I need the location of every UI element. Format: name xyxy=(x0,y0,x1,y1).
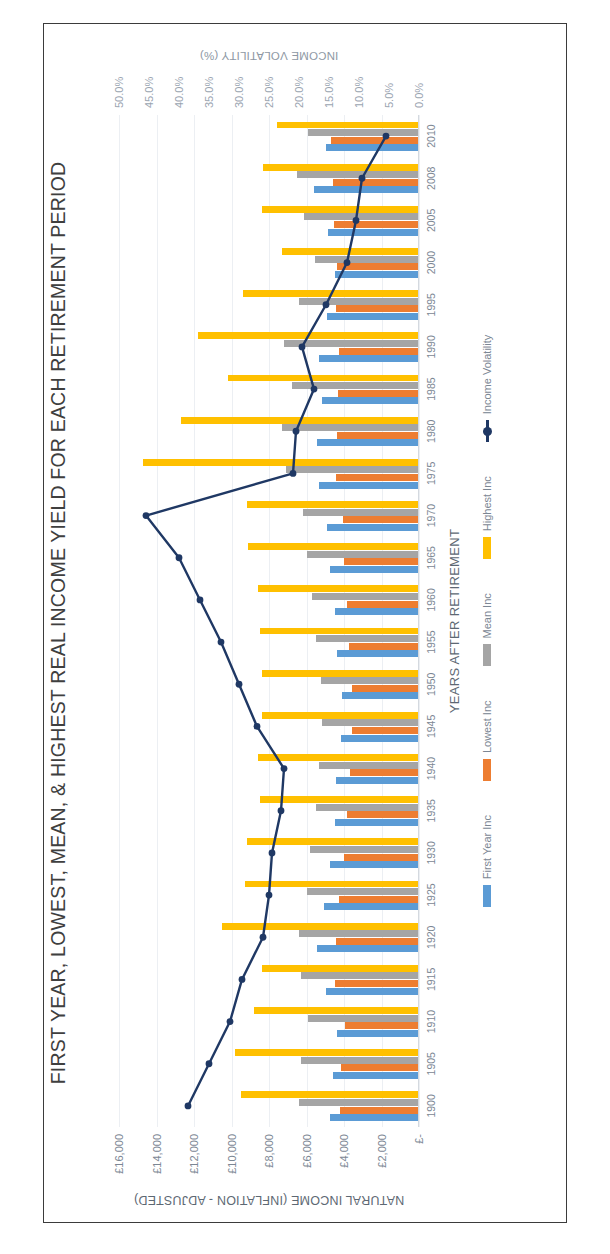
y-tick-label-right: 30.0% xyxy=(233,77,245,108)
x-tick-label: 2000 xyxy=(425,251,437,274)
legend-label: First Year Inc xyxy=(481,815,493,879)
x-tick-label: 1975 xyxy=(425,462,437,485)
x-tick-label: 1910 xyxy=(425,1010,437,1033)
volatility-point xyxy=(206,1060,213,1067)
legend-label: Mean Inc xyxy=(481,593,493,638)
x-tick-label: 2010 xyxy=(425,124,437,147)
x-axis-baseline xyxy=(418,115,419,1127)
volatility-point xyxy=(176,554,183,561)
y-axis-title-right: INCOME VOLATILITY (%) xyxy=(119,47,419,65)
y-tick-label-right: 10.0% xyxy=(353,77,365,108)
legend-label: Lowest Inc xyxy=(481,700,493,753)
chart-title: FIRST YEAR, LOWEST, MEAN, & HIGHEST REAL… xyxy=(47,23,70,1223)
y-axis-title-left: NATURAL INCOME (INFLATION - ADJUSTED) xyxy=(119,1191,419,1209)
volatility-point xyxy=(260,934,267,941)
y-tick-label-right: 45.0% xyxy=(143,77,155,108)
y-tick-label-left: £- xyxy=(413,1134,425,1144)
volatility-point xyxy=(299,344,306,351)
y-tick-label-left: £12,000 xyxy=(188,1134,200,1174)
y-tick-label-right: 20.0% xyxy=(293,77,305,108)
y-tick-label-right: 25.0% xyxy=(263,77,275,108)
legend-swatch xyxy=(483,644,491,666)
volatility-line-layer xyxy=(119,115,419,1127)
rotated-chart-wrapper: FIRST YEAR, LOWEST, MEAN, & HIGHEST REAL… xyxy=(43,23,567,1223)
x-tick-label: 1920 xyxy=(425,926,437,949)
volatility-point xyxy=(278,807,285,814)
x-tick-label: 1905 xyxy=(425,1052,437,1075)
page-canvas: FIRST YEAR, LOWEST, MEAN, & HIGHEST REAL… xyxy=(0,0,610,1254)
legend-swatch xyxy=(486,420,489,442)
y-tick-label-left: £4,000 xyxy=(338,1134,350,1168)
chart-rotor: FIRST YEAR, LOWEST, MEAN, & HIGHEST REAL… xyxy=(43,23,567,1223)
x-tick-label: 1980 xyxy=(425,420,437,443)
x-tick-label: 1915 xyxy=(425,968,437,991)
volatility-point xyxy=(293,428,300,435)
volatility-point xyxy=(290,470,297,477)
y-tick-label-left: £6,000 xyxy=(301,1134,313,1168)
x-tick-label: 1995 xyxy=(425,293,437,316)
x-tick-label: 1945 xyxy=(425,715,437,738)
x-tick-label: 1950 xyxy=(425,673,437,696)
volatility-point xyxy=(239,976,246,983)
y-axis-title-left-text: NATURAL INCOME (INFLATION - ADJUSTED) xyxy=(134,1193,404,1207)
legend-swatch xyxy=(483,759,491,781)
volatility-line xyxy=(146,136,386,1106)
y-axis-title-right-text: INCOME VOLATILITY (%) xyxy=(200,50,339,62)
volatility-point xyxy=(323,301,330,308)
volatility-point xyxy=(143,512,150,519)
x-axis-title: YEARS AFTER RETIREMENT xyxy=(447,115,462,1127)
x-tick-label: 2005 xyxy=(425,209,437,232)
x-tick-label: 1900 xyxy=(425,1094,437,1117)
volatility-point xyxy=(311,386,318,393)
legend-swatch xyxy=(483,885,491,907)
x-tick-label: 1940 xyxy=(425,757,437,780)
legend-item[interactable]: Income Volatility xyxy=(481,335,493,442)
volatility-point xyxy=(197,597,204,604)
x-tick-label: 1925 xyxy=(425,883,437,906)
volatility-point xyxy=(281,765,288,772)
x-tick-label: 1960 xyxy=(425,588,437,611)
legend-item[interactable]: Highest Inc xyxy=(481,476,493,559)
y-tick-label-right: 5.0% xyxy=(383,83,395,108)
volatility-point xyxy=(254,723,261,730)
x-tick-label: 1990 xyxy=(425,335,437,358)
x-tick-label: 2008 xyxy=(425,167,437,190)
volatility-point xyxy=(344,259,351,266)
y-tick-label-left: £8,000 xyxy=(263,1134,275,1168)
legend-label: Highest Inc xyxy=(481,476,493,531)
volatility-point xyxy=(227,1018,234,1025)
legend-item[interactable]: Lowest Inc xyxy=(481,700,493,781)
x-tick-label: 1955 xyxy=(425,630,437,653)
x-tick-label: 1930 xyxy=(425,841,437,864)
volatility-point xyxy=(269,850,276,857)
x-tick-label: 1965 xyxy=(425,546,437,569)
chart-legend: First Year IncLowest IncMean IncHighest … xyxy=(481,115,493,1127)
plot-area: £16,000£14,000£12,000£10,000£8,000£6,000… xyxy=(119,115,419,1127)
volatility-point xyxy=(353,217,360,224)
x-tick-label: 1935 xyxy=(425,799,437,822)
legend-item[interactable]: Mean Inc xyxy=(481,593,493,666)
gridline xyxy=(419,115,420,1127)
volatility-point xyxy=(218,639,225,646)
y-tick-label-right: 0.0% xyxy=(413,83,425,108)
volatility-point xyxy=(236,681,243,688)
y-tick-label-right: 35.0% xyxy=(203,77,215,108)
y-tick-label-left: £14,000 xyxy=(151,1134,163,1174)
x-tick-label: 1970 xyxy=(425,504,437,527)
y-tick-label-right: 40.0% xyxy=(173,77,185,108)
legend-label: Income Volatility xyxy=(481,335,493,414)
x-tick-label: 1985 xyxy=(425,377,437,400)
volatility-point xyxy=(359,175,366,182)
y-tick-label-left: £16,000 xyxy=(113,1134,125,1174)
volatility-point xyxy=(383,133,390,140)
volatility-point xyxy=(266,892,273,899)
y-tick-label-left: £10,000 xyxy=(226,1134,238,1174)
legend-item[interactable]: First Year Inc xyxy=(481,815,493,907)
y-tick-label-right: 15.0% xyxy=(323,77,335,108)
legend-swatch xyxy=(483,537,491,559)
volatility-point xyxy=(185,1103,192,1110)
y-tick-label-left: £2,000 xyxy=(376,1134,388,1168)
y-tick-label-right: 50.0% xyxy=(113,77,125,108)
